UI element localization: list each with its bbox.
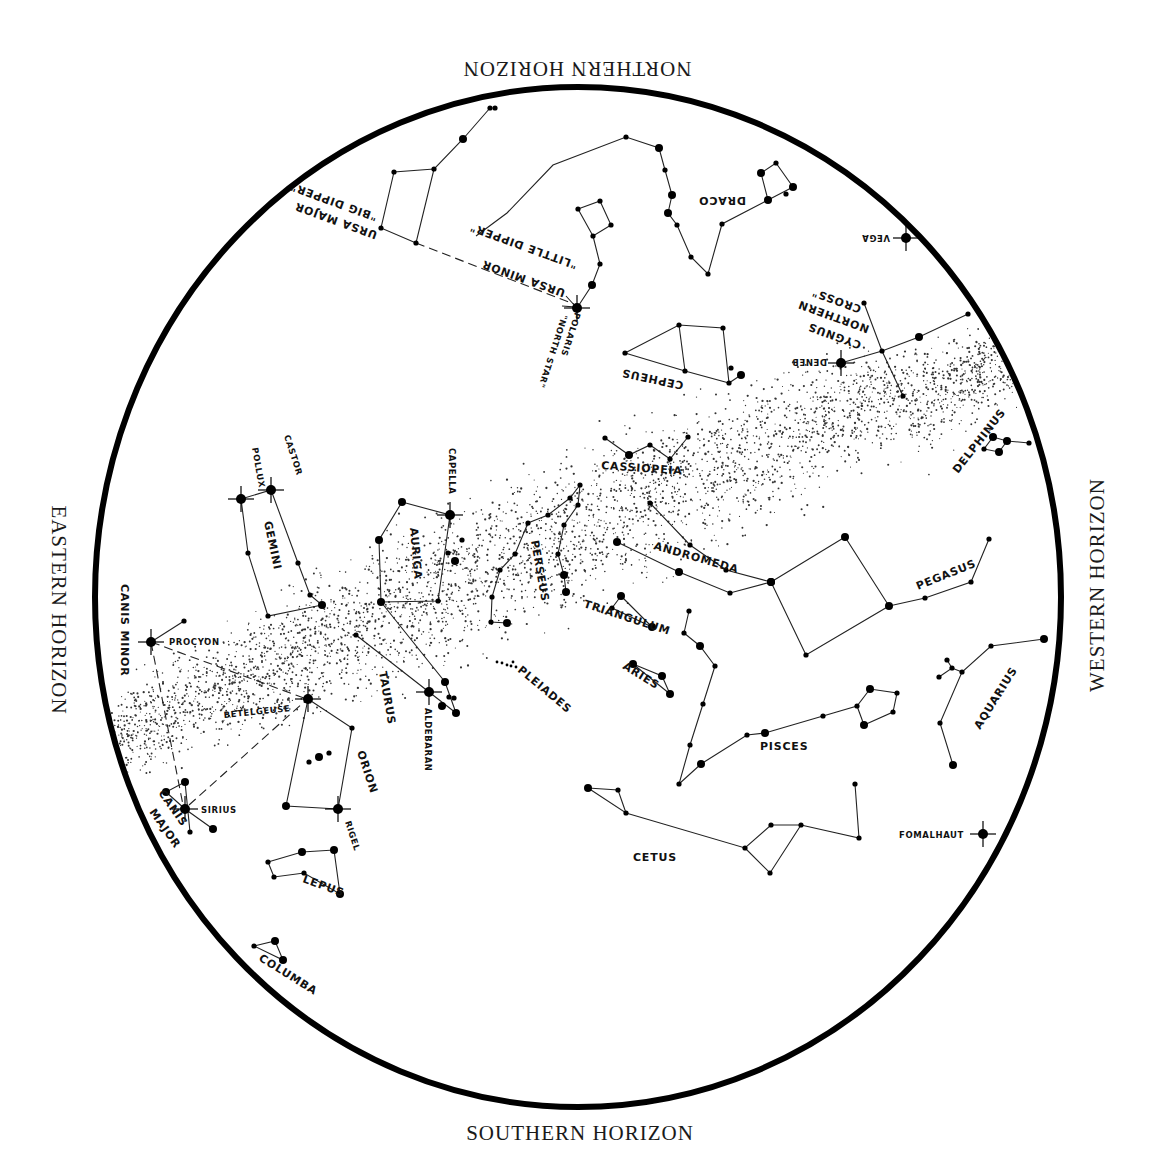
star-icon <box>856 835 861 840</box>
constellation-line <box>679 325 685 371</box>
star-icon <box>615 787 620 792</box>
label-castor: CASTOR <box>282 434 305 477</box>
star-icon <box>687 542 692 547</box>
bright-star-icon <box>437 502 463 528</box>
star-icon <box>757 169 765 177</box>
star-icon <box>503 619 511 627</box>
star-icon <box>298 848 306 856</box>
star-icon <box>265 613 270 618</box>
star-icon <box>209 825 217 833</box>
star-icon <box>768 822 773 827</box>
star-icon <box>944 657 949 662</box>
star-icon <box>512 551 517 556</box>
star-icon <box>744 732 749 737</box>
label-capella: CAPELLA <box>447 448 457 494</box>
star-icon <box>728 365 733 370</box>
star-icon <box>674 222 679 227</box>
star-icon <box>789 183 797 191</box>
star-icon <box>662 167 667 172</box>
star-icon <box>501 662 504 665</box>
star-icon <box>676 781 681 786</box>
bright-star-icon <box>228 486 254 512</box>
star-icon <box>773 160 778 165</box>
star-icon <box>307 592 312 597</box>
star-icon <box>852 781 857 786</box>
star-icon <box>613 538 621 546</box>
label-lepus: LEPUS <box>301 873 346 900</box>
constellation-line <box>745 825 801 873</box>
star-icon <box>590 233 595 238</box>
star-icon <box>995 448 1003 456</box>
star-icon <box>879 348 884 353</box>
star-icon <box>597 261 602 266</box>
star-icon <box>922 595 927 600</box>
star-icon <box>949 761 957 769</box>
star-icon <box>446 694 451 699</box>
star-icon <box>282 802 290 810</box>
pointer-lines <box>151 243 576 805</box>
star-icon <box>398 498 406 506</box>
star-icon <box>245 550 250 555</box>
eastern-horizon-label: EASTERN HORIZON <box>47 505 71 714</box>
star-icon <box>330 846 338 854</box>
southern-horizon-label: SOUTHERN HORIZON <box>466 1121 694 1145</box>
constellation-line <box>578 201 611 236</box>
star-icon <box>866 685 874 693</box>
bright-star-icon <box>325 796 351 822</box>
star-icon <box>251 943 256 948</box>
star-icon <box>588 281 596 289</box>
label-taurus: TAURUS <box>376 670 398 725</box>
star-icon <box>431 166 436 171</box>
star-icon <box>271 874 276 879</box>
star-icon <box>720 325 725 330</box>
star-icon <box>391 169 396 174</box>
star-icon <box>783 191 788 196</box>
star-icon <box>647 500 652 505</box>
star-icon <box>647 442 652 447</box>
labels: URSA MAJOR "BIG DIPPER" URSA MINOR "LITT… <box>118 180 1020 998</box>
star-icon <box>1026 440 1031 445</box>
star-icon <box>577 482 582 487</box>
star-icon <box>767 870 772 875</box>
star-icon <box>489 594 494 599</box>
star-icon <box>452 709 460 717</box>
star-icon <box>854 703 859 708</box>
star-icon <box>688 254 693 259</box>
star-icon <box>181 618 186 623</box>
label-auriga: AURIGA <box>407 527 424 580</box>
star-icon <box>1003 437 1011 445</box>
star-icon <box>988 643 993 648</box>
bright-star-icon <box>416 679 442 705</box>
star-icon <box>413 240 418 245</box>
star-icon <box>349 725 354 730</box>
star-icon <box>696 642 704 650</box>
northern-horizon-label: NORTHERN HORIZON <box>463 57 692 81</box>
constellation-line <box>588 788 626 813</box>
star-icon <box>937 720 942 725</box>
star-icon <box>655 144 663 152</box>
star-icon <box>764 196 772 204</box>
constellation-line <box>626 784 859 848</box>
label-columba: COLUMBA <box>256 952 319 998</box>
star-icon <box>860 721 868 729</box>
star-icon <box>375 536 383 544</box>
star-icon <box>841 533 849 541</box>
constellation-line <box>605 437 688 459</box>
bright-star-icon <box>970 821 996 847</box>
constellation-line <box>679 611 897 784</box>
star-icon <box>820 713 825 718</box>
star-icon <box>584 784 592 792</box>
star-icon <box>968 579 973 584</box>
star-icon <box>353 632 358 637</box>
star-icon <box>890 709 895 714</box>
star-icon <box>555 551 560 556</box>
star-icon <box>986 536 991 541</box>
star-icon <box>727 590 732 595</box>
star-icon <box>488 619 493 624</box>
label-perseus: PERSEUS <box>528 539 552 602</box>
star-icon <box>900 393 905 398</box>
label-delphinus: DELPHINUS <box>950 406 1008 476</box>
star-icon <box>668 191 676 199</box>
star-icon <box>936 674 941 679</box>
star-icon <box>315 753 323 761</box>
